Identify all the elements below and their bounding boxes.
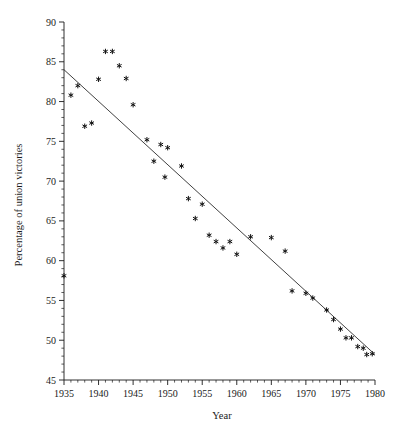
data-point-marker [131,102,136,107]
x-tick-label: 1970 [296,388,316,399]
data-point-marker [152,159,157,164]
data-point-marker [361,345,366,350]
data-points [62,49,375,358]
x-axis-title: Year [212,410,232,421]
data-point-marker [221,245,226,250]
x-axis: 1935194019451950195519601965197019751980 [54,380,385,399]
data-point-marker [344,335,349,340]
data-point-marker [364,352,369,357]
x-tick-label: 1980 [365,388,385,399]
data-point-marker [69,92,74,97]
y-tick-label: 70 [46,176,56,187]
data-point-marker [338,326,343,331]
data-point-marker [200,201,205,206]
chart-page: 45505560657075808590 1935194019451950195… [0,0,404,440]
data-point-marker [110,49,115,54]
y-tick-label: 50 [46,335,56,346]
data-point-marker [214,239,219,244]
data-point-marker [193,216,198,221]
x-tick-label: 1945 [123,388,143,399]
y-tick-label: 55 [46,295,56,306]
data-point-marker [186,196,191,201]
data-point-marker [145,137,150,142]
x-tick-label: 1940 [89,388,109,399]
y-tick-label: 85 [46,56,56,67]
data-point-marker [117,63,122,68]
y-tick-label: 80 [46,96,56,107]
data-point-marker [283,248,288,253]
x-tick-label: 1955 [192,388,212,399]
data-point-marker [349,335,354,340]
x-tick-label: 1975 [330,388,350,399]
y-tick-label: 65 [46,215,56,226]
data-point-marker [163,174,168,179]
data-point-marker [290,288,295,293]
y-tick-label: 75 [46,136,56,147]
data-point-marker [89,120,94,125]
data-point-marker [124,76,129,81]
data-point-marker [165,145,170,150]
y-tick-label: 90 [46,17,56,28]
data-point-marker [179,163,184,168]
data-point-marker [269,235,274,240]
data-point-marker [82,124,87,129]
y-axis: 45505560657075808590 [46,17,64,386]
data-point-marker [62,273,67,278]
y-tick-label: 60 [46,255,56,266]
scatter-plot: 45505560657075808590 1935194019451950195… [0,0,404,440]
x-tick-label: 1965 [261,388,281,399]
data-point-marker [207,233,212,238]
data-point-marker [234,252,239,257]
regression-line [64,70,375,355]
data-point-marker [103,49,108,54]
data-point-marker [96,77,101,82]
y-tick-label: 45 [46,375,56,386]
data-point-marker [355,344,360,349]
x-tick-label: 1950 [158,388,178,399]
x-tick-label: 1935 [54,388,74,399]
y-axis-title: Percentage of union victories [13,144,24,267]
x-tick-label: 1960 [227,388,247,399]
fit-line [64,70,375,355]
data-point-marker [228,239,233,244]
data-point-marker [158,142,163,147]
